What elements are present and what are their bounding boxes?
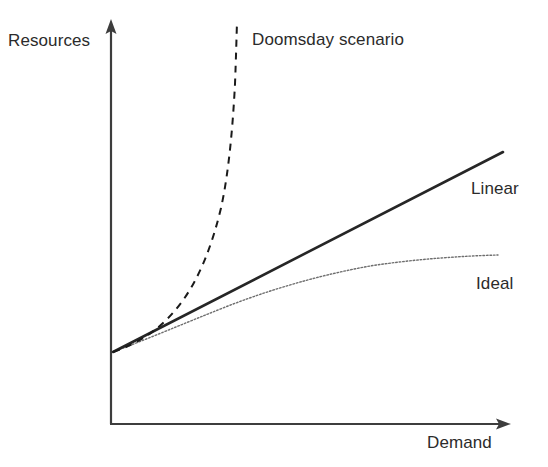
chart-container: Resources Doomsday scenario Linear Ideal… [0, 0, 548, 467]
axes-group [106, 19, 512, 430]
y-axis-label: Resources [8, 31, 90, 50]
x-axis-label: Demand [427, 433, 492, 452]
series-label-linear: Linear [471, 179, 519, 198]
series-label-doomsday: Doomsday scenario [252, 30, 404, 49]
chart-plot-area [0, 0, 548, 467]
series-label-ideal: Ideal [476, 274, 513, 293]
series-line-doomsday [113, 22, 237, 352]
series-line-linear [113, 152, 503, 352]
series-group [113, 22, 503, 352]
series-line-ideal [113, 255, 498, 352]
